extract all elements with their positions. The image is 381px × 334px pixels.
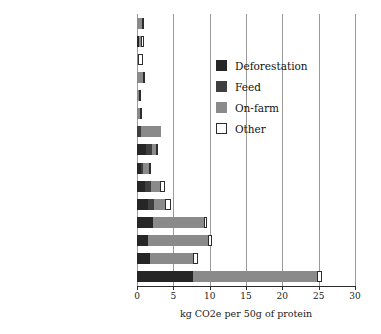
legend-item[interactable]: Feed bbox=[216, 76, 308, 97]
chart-legend: DeforestationFeedOn-farmOther bbox=[216, 55, 308, 139]
bar-segment[interactable] bbox=[193, 253, 198, 264]
bar-segment[interactable] bbox=[149, 163, 151, 174]
legend-label: Feed bbox=[235, 81, 261, 93]
stacked-bar[interactable] bbox=[137, 253, 198, 264]
legend-item[interactable]: Deforestation bbox=[216, 55, 308, 76]
bar-segment[interactable] bbox=[137, 271, 193, 282]
bar-segment[interactable] bbox=[141, 126, 161, 137]
x-tick bbox=[282, 286, 283, 290]
chart-row: Pork bbox=[0, 195, 381, 213]
x-tick bbox=[246, 286, 247, 290]
x-tick bbox=[173, 286, 174, 290]
chart-row: Lobsters, king prawns bbox=[0, 213, 381, 231]
bar-segment[interactable] bbox=[140, 108, 142, 119]
x-tick bbox=[355, 286, 356, 290]
legend-label: Deforestation bbox=[235, 60, 308, 72]
bar-segment[interactable] bbox=[208, 235, 212, 246]
bar-segment[interactable] bbox=[137, 217, 153, 228]
legend-label: On-farm bbox=[235, 102, 279, 114]
x-tick bbox=[319, 286, 320, 290]
stacked-bar[interactable] bbox=[137, 235, 212, 246]
bar-segment[interactable] bbox=[138, 54, 143, 65]
stacked-bar[interactable] bbox=[137, 199, 171, 210]
bar-segment[interactable] bbox=[154, 199, 165, 210]
legend-swatch-deforestation bbox=[216, 60, 227, 71]
chart-row: Nuts bbox=[0, 87, 381, 105]
stacked-bar[interactable] bbox=[137, 271, 322, 282]
stacked-bar[interactable] bbox=[137, 36, 144, 47]
bar-segment[interactable] bbox=[141, 36, 144, 47]
bar-segment[interactable] bbox=[137, 235, 148, 246]
bar-segment[interactable] bbox=[142, 18, 144, 29]
bar-segment[interactable] bbox=[143, 72, 145, 83]
bar-segment[interactable] bbox=[139, 90, 141, 101]
bar-segment[interactable] bbox=[165, 199, 171, 210]
bar-segment[interactable] bbox=[148, 235, 208, 246]
chart-row: Lamb and mutton bbox=[0, 232, 381, 250]
bar-segment[interactable] bbox=[150, 253, 193, 264]
legend-swatch-feed bbox=[216, 81, 227, 92]
x-tick-label: 10 bbox=[195, 291, 225, 301]
chart-row: Chicken bbox=[0, 177, 381, 195]
chart-row: Groundnuts bbox=[0, 68, 381, 86]
chart-row: Milk bbox=[0, 159, 381, 177]
legend-item[interactable]: Other bbox=[216, 118, 308, 139]
bar-segment[interactable] bbox=[153, 217, 204, 228]
legend-swatch-onfarm bbox=[216, 102, 227, 113]
chart-row: Peas bbox=[0, 105, 381, 123]
stacked-bar[interactable] bbox=[137, 217, 207, 228]
chart-row: Beef (from a beef herd) bbox=[0, 268, 381, 286]
chart-container: PulsesTofuSoya milkGroundnutsNutsPeasFis… bbox=[0, 0, 381, 334]
x-tick-label: 25 bbox=[304, 291, 334, 301]
stacked-bar[interactable] bbox=[137, 54, 143, 65]
x-tick-label: 15 bbox=[231, 291, 261, 301]
chart-row: Beef (from a dairy herd) bbox=[0, 250, 381, 268]
x-tick bbox=[137, 286, 138, 290]
chart-row: Eggs bbox=[0, 141, 381, 159]
bar-segment[interactable] bbox=[317, 271, 322, 282]
chart-row: Fish (farmed) bbox=[0, 123, 381, 141]
stacked-bar[interactable] bbox=[137, 18, 144, 29]
legend-label: Other bbox=[235, 123, 266, 135]
bar-segment[interactable] bbox=[193, 271, 317, 282]
x-axis-title: kg CO2e per 50g of protein bbox=[137, 308, 355, 319]
bar-segment[interactable] bbox=[137, 181, 145, 192]
x-tick-label: 20 bbox=[267, 291, 297, 301]
x-tick-label: 0 bbox=[122, 291, 152, 301]
stacked-bar[interactable] bbox=[137, 90, 141, 101]
stacked-bar[interactable] bbox=[137, 108, 142, 119]
bar-segment[interactable] bbox=[204, 217, 207, 228]
stacked-bar[interactable] bbox=[137, 181, 165, 192]
legend-swatch-other bbox=[216, 123, 227, 134]
bar-segment[interactable] bbox=[151, 181, 160, 192]
stacked-bar[interactable] bbox=[137, 144, 158, 155]
x-tick-label: 5 bbox=[158, 291, 188, 301]
x-tick bbox=[210, 286, 211, 290]
bar-segment[interactable] bbox=[160, 181, 165, 192]
chart-row: Tofu bbox=[0, 32, 381, 50]
stacked-bar[interactable] bbox=[137, 72, 145, 83]
bar-segment[interactable] bbox=[156, 144, 158, 155]
chart-row: Pulses bbox=[0, 14, 381, 32]
chart-row: Soya milk bbox=[0, 50, 381, 68]
stacked-bar[interactable] bbox=[137, 126, 161, 137]
bar-segment[interactable] bbox=[137, 253, 150, 264]
stacked-bar[interactable] bbox=[137, 163, 151, 174]
legend-item[interactable]: On-farm bbox=[216, 97, 308, 118]
bar-segment[interactable] bbox=[137, 144, 146, 155]
bar-segment[interactable] bbox=[137, 199, 148, 210]
x-tick-label: 30 bbox=[340, 291, 370, 301]
